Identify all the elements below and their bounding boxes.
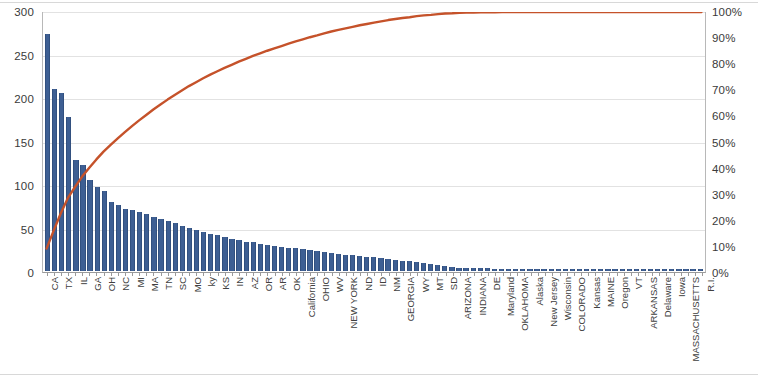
x-label-cell — [150, 275, 157, 375]
x-label-cell — [649, 275, 656, 375]
bar-cell — [597, 12, 604, 271]
x-label-cell — [592, 275, 599, 375]
bar-cell — [463, 12, 470, 271]
x-label-cell: ND — [357, 275, 364, 375]
x-label-cell — [136, 275, 143, 375]
bar-cell — [633, 12, 640, 271]
plot-area — [42, 12, 706, 273]
x-label-cell: OHIO — [314, 275, 321, 375]
bar — [350, 255, 355, 271]
bar — [520, 269, 525, 271]
bar-cell — [87, 12, 94, 271]
y-axis-left-tick: 250 — [14, 50, 34, 62]
bar-cell — [94, 12, 101, 271]
bar — [109, 202, 114, 271]
pareto-chart: 050100150200250300 0%10%20%30%40%50%60%7… — [0, 0, 758, 377]
bar — [286, 248, 291, 271]
bar — [421, 263, 426, 271]
bar-cell — [406, 12, 413, 271]
bar-cell — [349, 12, 356, 271]
x-label-cell — [207, 275, 214, 375]
x-label-cell: Alaska — [528, 275, 535, 375]
bar — [258, 244, 263, 271]
x-label-cell — [463, 275, 470, 375]
bar-cell — [697, 12, 704, 271]
x-label-cell — [421, 275, 428, 375]
bar-cell — [399, 12, 406, 271]
x-label-cell — [364, 275, 371, 375]
bar — [158, 219, 163, 271]
bar — [123, 209, 128, 271]
bar-cell — [413, 12, 420, 271]
bar — [435, 265, 440, 271]
x-label-cell: INDIANA — [471, 275, 478, 375]
x-label-cell: MASSACHUSETTS — [684, 275, 691, 375]
bar — [102, 191, 107, 271]
bar — [442, 266, 447, 271]
x-label-cell — [235, 275, 242, 375]
bar-cell — [150, 12, 157, 271]
bar-cell — [179, 12, 186, 271]
bar-cell — [470, 12, 477, 271]
x-label-cell: OR — [257, 275, 264, 375]
bar — [73, 160, 78, 271]
bar — [201, 232, 206, 271]
bar — [364, 257, 369, 271]
bar-cell — [51, 12, 58, 271]
bar-cell — [278, 12, 285, 271]
bar — [222, 237, 227, 271]
x-label-cell: OKLAHOMA — [513, 275, 520, 375]
bar — [343, 255, 348, 271]
bar — [527, 269, 532, 271]
x-label-cell: Wisconsin — [556, 275, 563, 375]
bar — [641, 269, 646, 271]
bar — [371, 257, 376, 271]
x-label-cell — [107, 275, 114, 375]
bar-cell — [491, 12, 498, 271]
x-label-cell: ARIZONA — [456, 275, 463, 375]
bar — [322, 252, 327, 271]
x-label-cell: GA — [86, 275, 93, 375]
x-label-cell — [221, 275, 228, 375]
bar-cell — [193, 12, 200, 271]
bar-cell — [392, 12, 399, 271]
x-label-cell: COLORADO — [570, 275, 577, 375]
bar-cell — [342, 12, 349, 271]
bar-cell — [654, 12, 661, 271]
y-axis-left-tick: 100 — [14, 180, 34, 192]
bar — [584, 269, 589, 271]
x-label-cell — [492, 275, 499, 375]
bar-cell — [172, 12, 179, 271]
y-axis-right-tick: 10% — [712, 241, 736, 253]
bar — [563, 269, 568, 271]
bar-cell — [640, 12, 647, 271]
bar — [215, 235, 220, 271]
bar-cell — [583, 12, 590, 271]
x-label-cell: GEORGIA — [399, 275, 406, 375]
bar-cell — [690, 12, 697, 271]
bar — [478, 268, 483, 271]
bar — [648, 269, 653, 271]
bar — [137, 212, 142, 271]
x-label-cell — [378, 275, 385, 375]
bar — [336, 254, 341, 271]
bar-cell — [271, 12, 278, 271]
bar-cell — [562, 12, 569, 271]
bar-cell — [576, 12, 583, 271]
bar-cell — [363, 12, 370, 271]
bar-cell — [158, 12, 165, 271]
bar — [180, 226, 185, 271]
bar — [229, 239, 234, 271]
bar-cell — [228, 12, 235, 271]
bar — [393, 260, 398, 271]
bar-cell — [200, 12, 207, 271]
bar-cell — [221, 12, 228, 271]
bar — [676, 269, 681, 271]
bar-cell — [604, 12, 611, 271]
y-axis-right-tick: 20% — [712, 215, 736, 227]
y-axis-right-tick: 30% — [712, 189, 736, 201]
bar — [449, 267, 454, 271]
bar-cell — [65, 12, 72, 271]
y-axis-left-tick: 200 — [14, 93, 34, 105]
bar — [194, 230, 199, 271]
